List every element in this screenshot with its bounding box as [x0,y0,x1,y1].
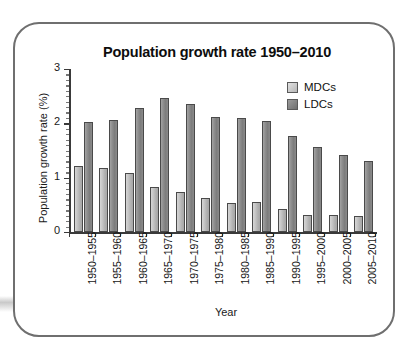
y-minor-tick [66,145,69,146]
y-minor-tick [66,96,69,97]
y-minor-tick [66,205,69,206]
bar-mdcs-1990–1995 [278,209,287,232]
chart-card: Population growth rate 1950–2010 Populat… [13,22,395,337]
bar-mdcs-1970–1975 [176,192,185,232]
y-minor-tick [66,134,69,135]
bar-ldcs-1980–1985 [237,118,246,232]
y-minor-tick [66,118,69,119]
y-minor-tick [66,227,69,228]
y-minor-tick [66,156,69,157]
legend-swatch-mdcs-icon [287,82,298,93]
x-tick-label-2000–2005: 2000–2005 [341,232,353,302]
bar-ldcs-1990–1995 [288,136,297,232]
bar-mdcs-1955–1960 [99,168,108,232]
bar-ldcs-1950–1955 [84,122,93,232]
y-minor-tick [66,216,69,217]
y-tick-2: 2 [64,123,69,124]
x-tick-label-1990–1995: 1990–1995 [290,232,302,302]
legend-swatch-ldcs-icon [287,99,298,110]
bar-mdcs-2000–2005 [329,215,338,232]
x-tick-label-1960–1965: 1960–1965 [137,232,149,302]
y-minor-tick [66,221,69,222]
y-minor-tick [66,80,69,81]
legend-label-ldcs: LDCs [304,98,333,110]
bar-ldcs-1955–1960 [109,120,118,232]
y-tick-label-1: 1 [54,170,60,182]
y-tick-3: 3 [64,69,69,70]
y-minor-tick [66,183,69,184]
x-tick-label-2005–2010: 2005–2010 [366,232,378,302]
y-minor-tick [66,167,69,168]
bar-ldcs-1960–1965 [135,108,144,232]
y-minor-tick [66,129,69,130]
legend-item-ldcs: LDCs [287,98,336,110]
bar-mdcs-1950–1955 [74,166,83,232]
x-tick-label-1965–1970: 1965–1970 [162,232,174,302]
y-minor-tick [66,189,69,190]
y-minor-tick [66,194,69,195]
y-minor-tick [66,107,69,108]
y-minor-tick [66,112,69,113]
bar-mdcs-1995–2000 [303,215,312,232]
bar-ldcs-1975–1980 [211,117,220,232]
y-minor-tick [66,85,69,86]
y-axis-label: Population growth rate (%) [37,73,49,243]
x-tick-label-1975–1980: 1975–1980 [213,232,225,302]
y-minor-tick [66,151,69,152]
x-axis-tick-labels: 1950–19551955–19601960–19651965–19701970… [69,234,377,304]
legend-label-mdcs: MDCs [304,81,336,93]
bar-mdcs-1985–1990 [252,202,261,232]
chart-title: Population growth rate 1950–2010 [15,44,397,60]
page-background: Population growth rate 1950–2010 Populat… [0,0,420,355]
x-tick-label-1985–1990: 1985–1990 [264,232,276,302]
bar-mdcs-1980–1985 [227,203,236,232]
y-tick-label-0: 0 [54,224,60,236]
y-minor-tick [66,74,69,75]
bar-ldcs-1995–2000 [313,147,322,232]
y-tick-1: 1 [64,178,69,179]
x-tick-label-1970–1975: 1970–1975 [188,232,200,302]
y-minor-tick [66,172,69,173]
bar-ldcs-1985–1990 [262,121,271,232]
bar-ldcs-2005–2010 [364,161,373,232]
y-minor-tick [66,210,69,211]
y-minor-tick [66,91,69,92]
x-axis-label: Year [15,306,397,318]
x-tick-label-1950–1955: 1950–1955 [86,232,98,302]
bar-chart: Population growth rate 1950–2010 Populat… [15,24,397,339]
bar-mdcs-2005–2010 [354,216,363,232]
y-tick-label-3: 3 [54,61,60,73]
bar-ldcs-1965–1970 [160,98,169,232]
bar-mdcs-1965–1970 [150,187,159,232]
y-minor-tick [66,140,69,141]
legend-item-mdcs: MDCs [287,81,336,93]
bar-mdcs-1960–1965 [125,173,134,232]
y-minor-tick [66,161,69,162]
x-tick-label-1995–2000: 1995–2000 [315,232,327,302]
bar-mdcs-1975–1980 [201,198,210,232]
chart-legend: MDCs LDCs [287,81,336,115]
bar-ldcs-1970–1975 [186,104,195,232]
x-tick-label-1955–1960: 1955–1960 [111,232,123,302]
y-tick-label-2: 2 [54,115,60,127]
bar-ldcs-2000–2005 [339,155,348,232]
x-tick-label-1980–1985: 1980–1985 [239,232,251,302]
y-minor-tick [66,102,69,103]
y-minor-tick [66,199,69,200]
